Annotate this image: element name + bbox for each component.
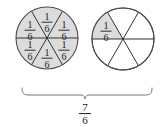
denominator: 6 [62, 51, 67, 62]
brace-path [22, 88, 152, 99]
denominator: 6 [28, 51, 33, 62]
numerator: 1 [45, 47, 50, 58]
total-brace [22, 88, 152, 99]
numerator: 7 [82, 101, 88, 113]
numerator: 1 [28, 39, 33, 50]
numerator: 1 [62, 39, 67, 50]
fraction-diagram-svg: 1 6 1 6 1 6 1 6 [0, 0, 168, 127]
denominator: 6 [104, 32, 109, 43]
denominator: 6 [45, 23, 50, 34]
numerator: 1 [28, 19, 33, 30]
total-fraction-label: 7 6 [79, 101, 91, 126]
numerator: 1 [104, 20, 109, 31]
circle-one-group: 1 6 1 6 1 6 1 6 [16, 7, 78, 70]
denominator: 6 [82, 114, 88, 126]
circle-one-center-dot [46, 37, 48, 39]
numerator: 1 [45, 11, 50, 22]
denominator: 6 [45, 59, 50, 70]
circle-two-center-dot [122, 38, 124, 40]
circle-two-group: 1 6 [92, 8, 154, 70]
fraction-figure: 1 6 1 6 1 6 1 6 [0, 0, 168, 127]
numerator: 1 [62, 19, 67, 30]
